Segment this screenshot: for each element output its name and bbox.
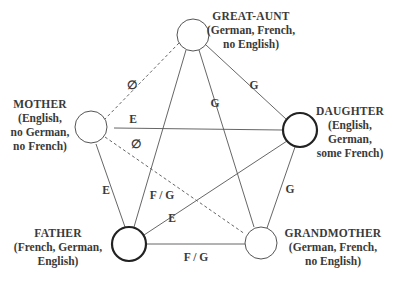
- label-grandmother-name: GRANDMOTHER: [277, 226, 389, 240]
- label-mother-lang-2: no German,: [4, 125, 76, 139]
- label-mother-lang-3: no French): [4, 139, 76, 153]
- label-great-aunt-lang-1: (German, French,: [196, 23, 306, 37]
- label-daughter-name: DAUGHTER: [308, 104, 392, 118]
- edge-daughter-father: [144, 141, 287, 235]
- node-grandmother: [245, 227, 277, 259]
- edge-label-daughter-father: E: [168, 212, 176, 224]
- label-father: FATHER (French, German, English): [6, 226, 110, 268]
- label-father-lang-2: English): [6, 254, 110, 268]
- label-great-aunt: GREAT-AUNT (German, French, no English): [196, 9, 306, 51]
- label-daughter-lang-3: some French): [308, 146, 392, 160]
- edge-mother-father: [96, 144, 125, 227]
- node-father: [112, 227, 146, 261]
- label-mother: MOTHER (English, no German, no French): [4, 97, 76, 153]
- edge-label-father-grandmother: F / G: [184, 251, 209, 263]
- edge-label-great-aunt-father: F / G: [150, 189, 175, 201]
- edge-label-great-aunt-grandmother: G: [211, 97, 220, 109]
- label-daughter-lang-2: German,: [308, 132, 392, 146]
- edge-label-great-aunt-mother: ∅: [127, 79, 137, 91]
- edges: [96, 43, 295, 244]
- label-great-aunt-name: GREAT-AUNT: [196, 9, 306, 23]
- edge-label-mother-daughter: E: [129, 113, 137, 125]
- label-daughter: DAUGHTER (English, German, some French): [308, 104, 392, 160]
- label-father-lang-1: (French, German,: [6, 240, 110, 254]
- edge-label-daughter-grandmother: G: [286, 183, 295, 195]
- node-mother: [75, 111, 107, 143]
- label-great-aunt-lang-2: no English): [196, 37, 306, 51]
- nodes: [75, 19, 317, 261]
- edge-label-great-aunt-daughter: G: [250, 79, 259, 91]
- label-father-name: FATHER: [6, 226, 110, 240]
- label-grandmother: GRANDMOTHER (German, French, no English): [277, 226, 389, 268]
- edge-great-aunt-grandmother: [199, 50, 254, 227]
- label-mother-name: MOTHER: [4, 97, 76, 111]
- edge-mother-daughter: [114, 128, 282, 130]
- label-daughter-lang-1: (English,: [308, 118, 392, 132]
- edge-label-mother-father: E: [102, 184, 110, 196]
- label-grandmother-lang-1: (German, French,: [277, 240, 389, 254]
- edge-great-aunt-mother: [105, 43, 179, 119]
- label-grandmother-lang-2: no English): [277, 254, 389, 268]
- label-mother-lang-1: (English,: [4, 111, 76, 125]
- edge-label-mother-grandmother: ∅: [131, 138, 141, 150]
